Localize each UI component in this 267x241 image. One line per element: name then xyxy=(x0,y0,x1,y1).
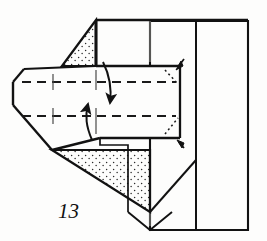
step-number-label: 13 xyxy=(58,199,79,223)
origami-figure-container: 13 xyxy=(0,0,267,241)
origami-diagram-svg: 13 xyxy=(0,0,267,241)
